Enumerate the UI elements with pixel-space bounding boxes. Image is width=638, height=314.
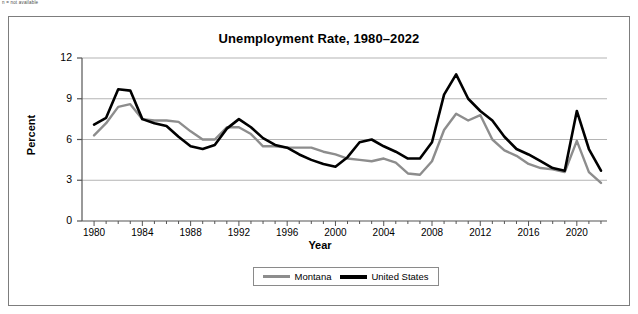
x-tick-label: 2016 bbox=[509, 227, 549, 238]
chart-panel: Unemployment Rate, 1980–2022 Percent Yea… bbox=[8, 16, 630, 306]
x-tick-label: 1996 bbox=[267, 227, 307, 238]
y-tick-label: 9 bbox=[46, 92, 72, 104]
gridlines bbox=[82, 58, 607, 180]
legend-item-montana: Montana bbox=[263, 271, 331, 282]
data-series-group bbox=[94, 74, 601, 183]
plot-area-wrapper: Percent Year 036912 19801984198819921996… bbox=[9, 17, 631, 307]
footnote-text: n = not available bbox=[2, 0, 38, 5]
legend-label-united-states: United States bbox=[371, 271, 428, 282]
x-tick-label: 2020 bbox=[557, 227, 597, 238]
x-tick-label: 2000 bbox=[315, 227, 355, 238]
y-tick-label: 3 bbox=[46, 173, 72, 185]
x-tick-label: 1992 bbox=[219, 227, 259, 238]
y-tick-label: 12 bbox=[46, 51, 72, 63]
legend-swatch-united-states bbox=[340, 275, 367, 279]
series-line-montana bbox=[94, 104, 601, 183]
x-tick-label: 1988 bbox=[171, 227, 211, 238]
series-line-united-states bbox=[94, 74, 601, 170]
y-tick-label: 6 bbox=[46, 133, 72, 145]
legend-label-montana: Montana bbox=[294, 271, 331, 282]
chart-legend: Montana United States bbox=[253, 267, 439, 286]
x-tick-label: 2008 bbox=[412, 227, 452, 238]
x-tick-label: 1984 bbox=[122, 227, 162, 238]
x-tick-label: 2004 bbox=[364, 227, 404, 238]
y-axis-label: Percent bbox=[25, 95, 37, 175]
y-tick-label: 0 bbox=[46, 214, 72, 226]
axis-ticks bbox=[77, 58, 601, 226]
legend-item-united-states: United States bbox=[340, 271, 428, 282]
x-tick-label: 2012 bbox=[460, 227, 500, 238]
x-tick-label: 1980 bbox=[74, 227, 114, 238]
x-axis-label: Year bbox=[9, 239, 631, 251]
legend-swatch-montana bbox=[263, 275, 290, 278]
